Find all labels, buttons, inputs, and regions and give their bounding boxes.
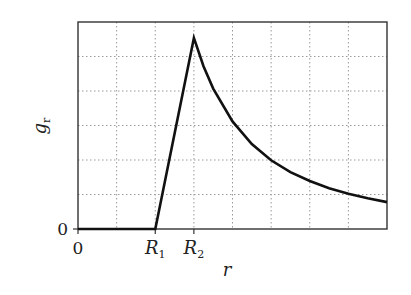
plot-frame — [78, 22, 387, 229]
x-tick-label: R2 — [183, 237, 205, 261]
grid-lines — [78, 22, 387, 229]
ticks: 0R1R20 — [57, 219, 204, 261]
chart: 0R1R20 r gr — [0, 0, 411, 295]
y-tick-label: 0 — [57, 219, 68, 239]
y-axis-label: gr — [29, 117, 53, 135]
x-tick-label: R1 — [144, 237, 166, 261]
x-axis-label: r — [223, 259, 233, 280]
x-tick-label: 0 — [73, 238, 84, 258]
